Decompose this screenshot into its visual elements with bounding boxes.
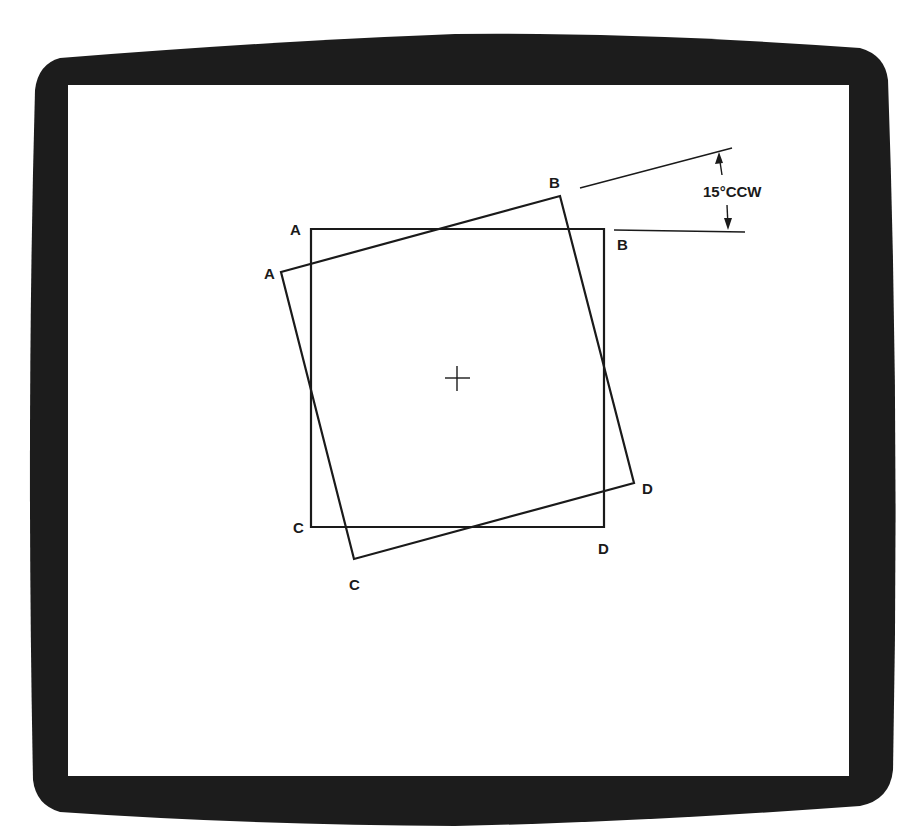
original-vertex-c-label: C [293,519,304,536]
original-vertex-d-label: D [598,540,609,557]
rotated-vertex-b-label: B [549,174,560,191]
rotated-vertex-d-label: D [642,480,653,497]
rotated-vertex-a-label: A [264,265,275,282]
original-vertex-b-label: B [617,236,628,253]
original-vertex-a-label: A [290,221,301,238]
diagram-canvas: 15°CCW A B C D A B C D [0,0,914,840]
rotated-vertex-c-label: C [349,576,360,593]
rotation-angle-label: 15°CCW [703,183,762,200]
monitor-bezel [30,34,896,826]
